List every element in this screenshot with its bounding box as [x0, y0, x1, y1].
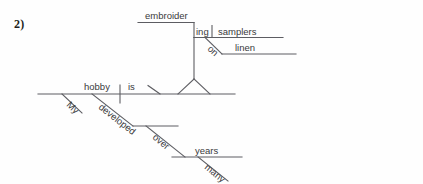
sentence-diagram-canvas — [0, 0, 423, 184]
pedestal-leg-right — [194, 79, 210, 94]
pedestal-leg-left — [178, 79, 194, 94]
word-linen: linen — [235, 43, 255, 53]
word-is: is — [128, 82, 135, 92]
word-hobby: hobby — [84, 82, 110, 92]
word-embroider: embroider — [145, 11, 188, 21]
diagram-page: 2) — [0, 0, 423, 184]
word-years: years — [195, 146, 218, 156]
word-samplers: samplers — [218, 27, 257, 37]
word-ing: ing — [196, 27, 209, 37]
predicate-nominative-slant — [148, 86, 160, 95]
